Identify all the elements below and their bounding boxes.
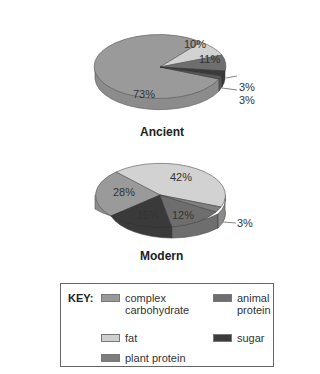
ancient-label-plant: 3%: [239, 81, 255, 93]
modern-label-plant: 3%: [237, 217, 253, 229]
modern-label-animal: 12%: [172, 209, 194, 221]
ancient-title: Ancient: [140, 125, 184, 139]
legend-label: plant protein: [125, 352, 186, 364]
swatch-icon: [101, 334, 120, 342]
ancient-label-sugar: 3%: [239, 94, 255, 106]
swatch-icon: [101, 354, 120, 362]
legend-label: animalprotein: [237, 292, 271, 316]
ancient-pie: [94, 34, 237, 109]
modern-title: Modern: [140, 249, 183, 263]
ancient-label-fat: 10%: [184, 38, 206, 50]
swatch-icon: [101, 294, 120, 302]
ancient-label-cc: 73%: [133, 88, 155, 100]
legend-item-plant-protein: plant protein: [101, 352, 186, 364]
swatch-icon: [213, 334, 232, 342]
legend-item-fat: fat: [101, 332, 137, 344]
modern-label-sugar: 15%: [137, 209, 159, 221]
legend-item-complex-carbohydrate: complexcarbohydrate: [101, 292, 189, 316]
legend-label: sugar: [237, 332, 265, 344]
legend-key-label: KEY:: [68, 292, 93, 304]
legend-label-line2: carbohydrate: [125, 304, 189, 316]
ancient-label-animal: 11%: [199, 53, 220, 65]
modern-pie: [95, 163, 236, 238]
legend-label-line1: complex: [125, 292, 166, 304]
legend-item-sugar: sugar: [213, 332, 265, 344]
legend-label-line2: protein: [237, 304, 271, 316]
legend: KEY: complexcarbohydrate fat plant prote…: [60, 283, 274, 367]
legend-label: complexcarbohydrate: [125, 292, 189, 316]
legend-label-line1: animal: [237, 292, 269, 304]
legend-item-animal-protein: animalprotein: [213, 292, 271, 316]
legend-label: fat: [125, 332, 137, 344]
modern-label-fat: 42%: [170, 171, 192, 183]
swatch-icon: [213, 294, 232, 302]
modern-label-cc: 28%: [113, 186, 135, 198]
